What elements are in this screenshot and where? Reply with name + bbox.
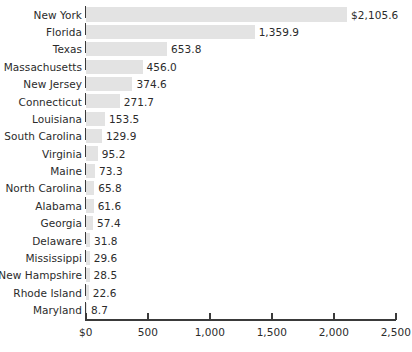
- bar[interactable]: [86, 146, 98, 160]
- bar-row[interactable]: Maine73.3: [0, 162, 412, 179]
- bar-value-label: 28.5: [94, 269, 118, 281]
- bar-row[interactable]: Mississippi29.6: [0, 249, 412, 266]
- bar-value-label: 29.6: [94, 252, 118, 264]
- bar-category-label: New Jersey: [23, 78, 82, 90]
- bar-category-label: Texas: [53, 43, 82, 55]
- bar-value-label: 653.8: [171, 43, 201, 55]
- bar[interactable]: [86, 268, 90, 282]
- bar-row[interactable]: South Carolina129.9: [0, 128, 412, 145]
- bar-row[interactable]: New Jersey374.6: [0, 76, 412, 93]
- bar[interactable]: [86, 251, 90, 265]
- bar-value-label: 95.2: [102, 148, 126, 160]
- x-axis-tick: [395, 313, 397, 320]
- bar-value-label: 456.0: [147, 61, 177, 73]
- bar-category-label: Mississippi: [26, 252, 83, 264]
- bar-row[interactable]: New Hampshire28.5: [0, 267, 412, 284]
- bar-value-label: 57.4: [97, 217, 121, 229]
- bar-value-label: 31.8: [94, 235, 118, 247]
- bar-row[interactable]: Georgia57.4: [0, 215, 412, 232]
- bar-row[interactable]: Connecticut271.7: [0, 93, 412, 110]
- bar[interactable]: [86, 164, 95, 178]
- bar-value-label: 61.6: [98, 200, 122, 212]
- bar-category-label: New York: [34, 9, 82, 21]
- bar[interactable]: [86, 199, 94, 213]
- bar[interactable]: [86, 94, 120, 108]
- bar-value-label: 8.7: [91, 304, 108, 316]
- x-axis-tick-label: $0: [79, 326, 92, 338]
- bar-category-label: Delaware: [32, 235, 82, 247]
- bar-category-label: Maryland: [33, 304, 82, 316]
- bar-category-label: Georgia: [40, 217, 82, 229]
- bar-value-label: 153.5: [109, 113, 139, 125]
- bar-category-label: New Hampshire: [0, 269, 82, 281]
- bar-value-label: 73.3: [99, 165, 123, 177]
- x-axis-tick: [85, 313, 87, 320]
- bar-row[interactable]: Texas653.8: [0, 41, 412, 58]
- bar[interactable]: [86, 181, 94, 195]
- bar-row[interactable]: Delaware31.8: [0, 232, 412, 249]
- bar-value-label: $2,105.6: [351, 9, 398, 21]
- bar-value-label: 129.9: [106, 130, 136, 142]
- x-axis-tick-label: 500: [138, 326, 158, 338]
- bar-category-label: South Carolina: [4, 130, 82, 142]
- bar-row[interactable]: Alabama61.6: [0, 197, 412, 214]
- bar[interactable]: [86, 233, 90, 247]
- value-axis-line: [85, 319, 396, 321]
- x-axis-tick: [209, 313, 211, 320]
- x-axis-tick-label: 2,000: [319, 326, 349, 338]
- x-axis-tick: [271, 313, 273, 320]
- bar[interactable]: [86, 285, 89, 299]
- bar-category-label: Connecticut: [19, 96, 82, 108]
- bar-row[interactable]: Rhode Island22.6: [0, 284, 412, 301]
- bar[interactable]: [86, 7, 347, 21]
- bar-row[interactable]: Louisiana153.5: [0, 110, 412, 127]
- bar-value-label: 374.6: [136, 78, 166, 90]
- bar-category-label: Rhode Island: [13, 287, 82, 299]
- bar-category-label: North Carolina: [5, 182, 82, 194]
- x-axis-tick-label: 1,000: [195, 326, 225, 338]
- bar-value-label: 271.7: [124, 96, 154, 108]
- bar[interactable]: [86, 216, 93, 230]
- bar-chart: New York$2,105.6Florida1,359.9Texas653.8…: [0, 0, 412, 352]
- x-axis-tick: [333, 313, 335, 320]
- bar-category-label: Florida: [46, 26, 82, 38]
- bar[interactable]: [86, 129, 102, 143]
- bar-category-label: Maine: [50, 165, 82, 177]
- bar-category-label: Virginia: [42, 148, 82, 160]
- bar[interactable]: [86, 77, 132, 91]
- bar[interactable]: [86, 60, 143, 74]
- x-axis-tick-label: 1,500: [257, 326, 287, 338]
- bar-row[interactable]: Florida1,359.9: [0, 23, 412, 40]
- bar-row[interactable]: Massachusetts456.0: [0, 58, 412, 75]
- bar-row[interactable]: New York$2,105.6: [0, 6, 412, 23]
- bar-row[interactable]: Maryland8.7: [0, 301, 412, 318]
- bar-value-label: 22.6: [93, 287, 117, 299]
- bar-category-label: Louisiana: [32, 113, 82, 125]
- bar[interactable]: [86, 42, 167, 56]
- bar[interactable]: [86, 25, 255, 39]
- plot-area: New York$2,105.6Florida1,359.9Texas653.8…: [0, 6, 412, 319]
- x-axis-tick-label: 2,500: [381, 326, 411, 338]
- bar-value-label: 1,359.9: [259, 26, 299, 38]
- bar-row[interactable]: Virginia95.2: [0, 145, 412, 162]
- x-axis-tick: [147, 313, 149, 320]
- category-axis-line: [85, 6, 86, 319]
- bar-category-label: Massachusetts: [4, 61, 82, 73]
- bar-row[interactable]: North Carolina65.8: [0, 180, 412, 197]
- bar[interactable]: [86, 112, 105, 126]
- bar-category-label: Alabama: [35, 200, 82, 212]
- bar-value-label: 65.8: [98, 182, 122, 194]
